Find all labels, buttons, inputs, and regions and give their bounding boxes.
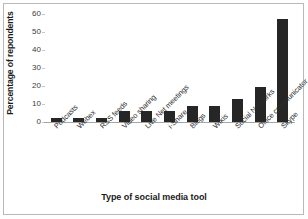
chart-figure: Percentage of repondents 0102030405060 P… [0, 0, 308, 219]
y-tick-label: 20 [0, 82, 41, 90]
bar-slot [90, 14, 113, 122]
bar-slot [45, 14, 68, 122]
y-tick-label: 0 [0, 118, 41, 126]
x-axis-tick-labels: PodcastsWebexRSS feedsVideo sharingLive … [45, 124, 294, 186]
y-tick-label: 60 [0, 10, 41, 18]
bar-slot [226, 14, 249, 122]
y-tick-label: 50 [0, 28, 41, 36]
y-tick-label: 40 [0, 46, 41, 54]
y-tick-label: 30 [0, 64, 41, 72]
y-tick-label: 10 [0, 100, 41, 108]
bar-slot [203, 14, 226, 122]
bar-slot [181, 14, 204, 122]
x-axis-title: Type of social media tool [0, 192, 308, 202]
